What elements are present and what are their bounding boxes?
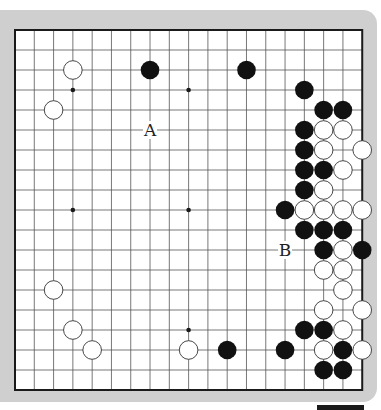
white-stone[interactable] (44, 281, 63, 300)
white-stone[interactable] (295, 201, 314, 220)
black-stone[interactable] (334, 361, 353, 380)
go-board[interactable]: AB (0, 0, 381, 410)
black-stone[interactable] (314, 101, 333, 120)
black-stone[interactable] (295, 321, 314, 340)
white-stone[interactable] (179, 341, 198, 360)
black-stone[interactable] (218, 341, 237, 360)
hoshi-point (186, 328, 191, 333)
white-stone[interactable] (334, 241, 353, 260)
black-stone[interactable] (295, 81, 314, 100)
black-stone[interactable] (295, 181, 314, 200)
white-stone[interactable] (314, 181, 333, 200)
black-stone[interactable] (314, 161, 333, 180)
black-stone[interactable] (334, 101, 353, 120)
white-stone[interactable] (314, 301, 333, 320)
bottom-bar (317, 405, 364, 410)
black-stone[interactable] (276, 341, 295, 360)
black-stone[interactable] (295, 141, 314, 160)
white-stone[interactable] (334, 321, 353, 340)
hoshi-point (186, 88, 191, 93)
hoshi-point (71, 88, 76, 93)
white-stone[interactable] (64, 61, 83, 80)
black-stone[interactable] (353, 241, 372, 260)
black-stone[interactable] (237, 61, 256, 80)
white-stone[interactable] (314, 141, 333, 160)
white-stone[interactable] (334, 121, 353, 140)
hoshi-point (186, 208, 191, 213)
white-stone[interactable] (353, 341, 372, 360)
black-stone[interactable] (334, 221, 353, 240)
white-stone[interactable] (334, 261, 353, 280)
black-stone[interactable] (314, 321, 333, 340)
white-stone[interactable] (334, 201, 353, 220)
white-stone[interactable] (314, 201, 333, 220)
white-stone[interactable] (353, 301, 372, 320)
white-stone[interactable] (314, 341, 333, 360)
white-stone[interactable] (44, 101, 63, 120)
white-stone[interactable] (314, 261, 333, 280)
white-stone[interactable] (353, 141, 372, 160)
white-stone[interactable] (334, 161, 353, 180)
move-label-b: B (279, 240, 292, 260)
black-stone[interactable] (295, 221, 314, 240)
white-stone[interactable] (83, 341, 102, 360)
move-label-a: A (143, 120, 157, 140)
black-stone[interactable] (314, 221, 333, 240)
black-stone[interactable] (141, 61, 160, 80)
black-stone[interactable] (295, 121, 314, 140)
white-stone[interactable] (353, 201, 372, 220)
black-stone[interactable] (334, 341, 353, 360)
black-stone[interactable] (276, 201, 295, 220)
hoshi-point (71, 208, 76, 213)
black-stone[interactable] (314, 241, 333, 260)
black-stone[interactable] (295, 161, 314, 180)
white-stone[interactable] (334, 281, 353, 300)
black-stone[interactable] (314, 361, 333, 380)
white-stone[interactable] (64, 321, 83, 340)
white-stone[interactable] (314, 121, 333, 140)
